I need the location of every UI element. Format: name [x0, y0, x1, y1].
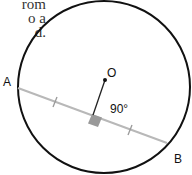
point-a-label: A [3, 75, 11, 89]
point-b-label: B [174, 152, 182, 166]
angle-label: 90° [110, 102, 128, 116]
circle [18, 1, 190, 173]
right-angle-marker [88, 114, 102, 127]
circle-chord-diagram: O 90° A B [0, 0, 192, 175]
perpendicular-segment [93, 80, 105, 115]
center-label: O [107, 66, 116, 80]
